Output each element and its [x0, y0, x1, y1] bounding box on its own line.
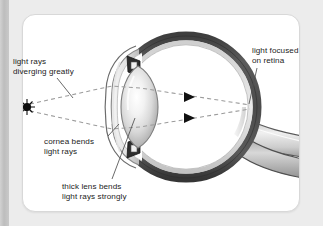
label-cornea-bends: cornea bends light rays — [44, 137, 94, 157]
eye-diagram — [0, 0, 323, 226]
label-light-focused: light focused on retina — [252, 46, 299, 66]
leader-diverging — [57, 78, 73, 98]
label-diverging-line2: diverging greatly — [13, 67, 74, 77]
label-focused-line2: on retina — [252, 56, 299, 66]
label-cornea-line2: light rays — [44, 147, 94, 157]
label-cornea-line1: cornea bends — [44, 137, 94, 147]
light-source-icon — [19, 99, 35, 115]
screenshot-root: light rays diverging greatly light focus… — [0, 0, 323, 226]
label-lens-line2: light rays strongly — [62, 192, 127, 202]
label-diverging-line1: light rays — [13, 57, 74, 67]
label-diverging-rays: light rays diverging greatly — [13, 57, 74, 77]
label-focused-line1: light focused — [252, 46, 299, 56]
label-lens-line1: thick lens bends — [62, 182, 127, 192]
label-thick-lens: thick lens bends light rays strongly — [62, 182, 127, 202]
